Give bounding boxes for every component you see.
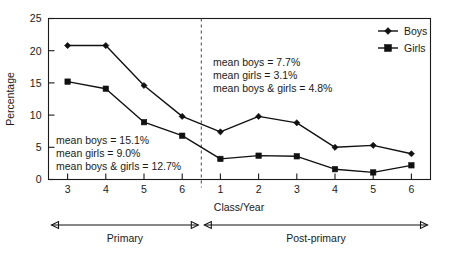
chart-container: 0510152025 3456123456 Percentage Class/Y… [0, 0, 455, 253]
data-point [294, 154, 299, 159]
x-tick-label: 3 [294, 183, 300, 195]
x-tick-label: 1 [217, 183, 223, 195]
annotation-primary-line-3: mean boys & girls = 12.7% [56, 160, 181, 172]
legend-item-girls[interactable]: Girls [378, 42, 426, 54]
data-point [256, 153, 261, 158]
chart-legend: Boys Girls [378, 25, 427, 54]
x-axis-title: Class/Year [214, 201, 265, 213]
x-tick-label: 4 [332, 183, 338, 195]
y-tick-label: 10 [30, 109, 42, 121]
annotation-primary-line-1: mean boys = 15.1% [56, 134, 149, 146]
x-tick-label: 6 [179, 183, 185, 195]
data-point [256, 113, 262, 119]
y-axis-tick-labels: 0510152025 [30, 12, 42, 185]
x-tick-label: 6 [408, 183, 414, 195]
x-tick-label: 5 [141, 183, 147, 195]
span-label: Post-primary [286, 232, 346, 244]
data-point [103, 86, 108, 91]
data-point [409, 163, 414, 168]
x-tick-label: 4 [103, 183, 109, 195]
y-tick-label: 25 [30, 12, 42, 24]
data-point [370, 142, 376, 148]
span-label: Primary [107, 232, 144, 244]
y-tick-label: 20 [30, 45, 42, 57]
legend-label-boys: Boys [404, 25, 427, 37]
x-tick-label: 5 [370, 183, 376, 195]
group-span-post-primary: Post-primary [204, 222, 427, 244]
x-axis-ticks [68, 174, 412, 180]
data-point [371, 170, 376, 175]
group-span-primary: Primary [52, 222, 199, 244]
data-point [65, 42, 71, 48]
annotation-primary-means: mean boys = 15.1% mean girls = 9.0% mean… [56, 134, 181, 172]
data-point [218, 156, 223, 161]
annotation-post-line-1: mean boys = 7.7% [213, 56, 300, 68]
legend-item-boys[interactable]: Boys [378, 25, 427, 37]
y-axis-title: Percentage [4, 72, 16, 126]
annotation-post-line-2: mean girls = 3.1% [213, 69, 297, 81]
y-tick-label: 15 [30, 77, 42, 89]
data-point [65, 79, 70, 84]
legend-label-girls: Girls [404, 42, 426, 54]
x-tick-label: 2 [256, 183, 262, 195]
y-tick-label: 0 [36, 173, 42, 185]
x-tick-label: 3 [65, 183, 71, 195]
line-chart: 0510152025 3456123456 Percentage Class/Y… [0, 0, 455, 253]
group-span-indicators: PrimaryPost-primary [52, 222, 428, 244]
y-axis-ticks [49, 19, 55, 180]
data-point [217, 129, 223, 135]
x-axis-tick-labels: 3456123456 [65, 183, 415, 195]
data-point [332, 166, 337, 171]
data-point [408, 151, 414, 157]
data-point [180, 133, 185, 138]
annotation-post-primary-means: mean boys = 7.7% mean girls = 3.1% mean … [213, 56, 332, 94]
legend-marker-boys-diamond [385, 28, 392, 35]
annotation-post-line-3: mean boys & girls = 4.8% [213, 82, 332, 94]
legend-marker-girls-square [385, 45, 392, 52]
data-point [141, 119, 146, 124]
y-tick-label: 5 [36, 141, 42, 153]
annotation-primary-line-2: mean girls = 9.0% [56, 147, 140, 159]
